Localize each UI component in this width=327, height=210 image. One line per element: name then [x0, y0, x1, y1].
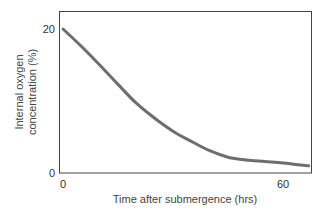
- y-axis-label-line-1: Internal oxygen: [13, 54, 25, 129]
- x-tick-label-60: 60: [277, 178, 289, 190]
- x-tick-label-0: 0: [60, 178, 66, 190]
- plot-frame: [60, 12, 312, 174]
- y-axis-label-line-2: concentration (%): [26, 49, 38, 135]
- oxygen-concentration-line: [63, 29, 309, 166]
- y-tick-label-20: 20: [43, 23, 55, 35]
- y-tick-label-0: 0: [49, 167, 55, 179]
- x-axis-label: Time after submergence (hrs): [113, 193, 257, 205]
- line-chart: 20 0 0 60 Time after submergence (hrs) I…: [0, 0, 327, 210]
- y-axis-label: Internal oxygen concentration (%): [13, 49, 38, 135]
